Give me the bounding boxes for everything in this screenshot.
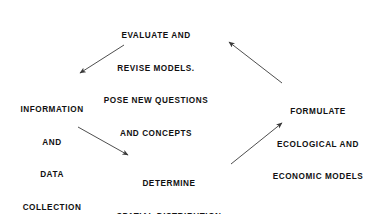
process-cycle-diagram: EVALUATE AND REVISE MODELS. POSE NEW QUE… <box>0 0 372 214</box>
node-line: SPATIAL DISTRIBUTION <box>104 212 234 214</box>
node-information-and-data-collection: INFORMATION AND DATA COLLECTION <box>8 83 96 214</box>
node-line: REVISE MODELS. <box>86 64 226 75</box>
node-determine-spatial-distribution: DETERMINE SPATIAL DISTRIBUTION OF ECOLOG… <box>104 157 234 214</box>
node-line: AND CONCEPTS <box>86 129 226 140</box>
node-line: COLLECTION <box>8 203 96 214</box>
node-line: FORMULATE <box>268 107 368 118</box>
node-line: DETERMINE <box>104 179 234 190</box>
node-line: EVALUATE AND <box>86 31 226 42</box>
arrow-formulate-to-evaluate <box>229 42 282 83</box>
node-line: DATA <box>8 170 96 181</box>
node-line: POSE NEW QUESTIONS <box>86 96 226 107</box>
node-evaluate-and-revise-models: EVALUATE AND REVISE MODELS. POSE NEW QUE… <box>86 9 226 162</box>
node-line: ECOLOGICAL AND <box>268 140 368 151</box>
node-formulate-ecological-and-economic-models: FORMULATE ECOLOGICAL AND ECONOMIC MODELS <box>268 85 368 205</box>
node-line: AND <box>8 138 96 149</box>
node-line: INFORMATION <box>8 105 96 116</box>
node-line: ECONOMIC MODELS <box>268 172 368 183</box>
